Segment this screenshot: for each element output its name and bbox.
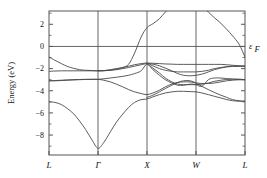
y-tick-label: −8 [35, 131, 44, 140]
y-tick-label: −6 [35, 109, 44, 118]
x-tick-label: W [192, 160, 201, 170]
fermi-label-subscript: F [254, 44, 261, 54]
band-structure-plot: 20−2−4−6−8LΓXWLEnergy (eV)εF [0, 0, 267, 178]
y-tick-label: −4 [35, 87, 44, 96]
x-tick-label: L [241, 160, 247, 170]
x-tick-label: L [45, 160, 51, 170]
y-axis-label: Energy (eV) [6, 62, 16, 104]
x-tick-label: Γ [94, 160, 101, 170]
fermi-label: ε [249, 41, 253, 51]
band-7-conduction-right [196, 0, 245, 57]
x-tick-label: X [143, 160, 150, 170]
band-structure-figure: 20−2−4−6−8LΓXWLEnergy (eV)εF [0, 0, 267, 178]
y-tick-label: 0 [40, 42, 44, 51]
y-tick-label: 2 [40, 20, 44, 29]
y-tick-label: −2 [35, 64, 44, 73]
